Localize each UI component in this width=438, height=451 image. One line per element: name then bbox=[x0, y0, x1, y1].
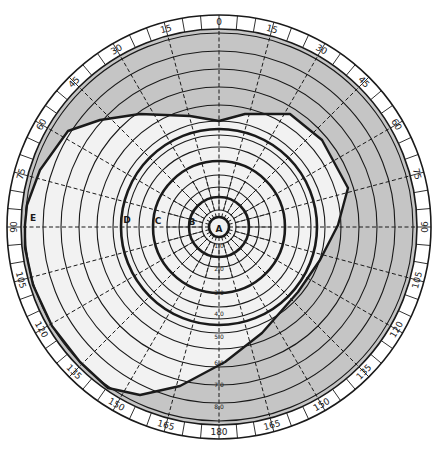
eccentricity-label: 5.0 bbox=[214, 333, 224, 340]
zone-label-a: A bbox=[216, 224, 223, 234]
eccentricity-label: 2.0 bbox=[214, 265, 224, 272]
angle-label-0: 0 bbox=[216, 17, 222, 27]
eccentricity-label: 3.0 bbox=[214, 289, 224, 296]
angle-label-270: 90 bbox=[9, 221, 19, 233]
eccentricity-label: 6.0 bbox=[214, 359, 224, 366]
eccentricity-label: 8.0 bbox=[214, 403, 224, 410]
eccentricity-label: 4.0 bbox=[214, 310, 224, 317]
zone-label-b: B bbox=[189, 217, 196, 227]
visual-field-chart: 0153045607590105120135150165180165150135… bbox=[0, 0, 438, 451]
angle-label-180: 180 bbox=[210, 427, 227, 437]
eccentricity-label: 7.0 bbox=[214, 381, 224, 388]
zone-label-d: D bbox=[123, 215, 130, 225]
eccentricity-label: 1.0 bbox=[214, 242, 224, 249]
angle-label-90: 90 bbox=[419, 221, 429, 233]
zone-label-e: E bbox=[30, 213, 36, 223]
zone-label-c: C bbox=[155, 216, 162, 226]
